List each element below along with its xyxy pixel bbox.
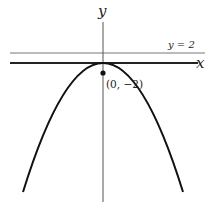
point-label: (0, −2) xyxy=(106,78,143,90)
x-axis-label: x xyxy=(196,54,204,72)
diagram-graphics xyxy=(0,0,217,209)
parabola-diagram: y x y = 2 (0, −2) xyxy=(0,0,217,209)
y-axis-label: y xyxy=(98,2,106,20)
horizontal-line-label: y = 2 xyxy=(168,39,195,50)
point-marker xyxy=(100,70,105,75)
